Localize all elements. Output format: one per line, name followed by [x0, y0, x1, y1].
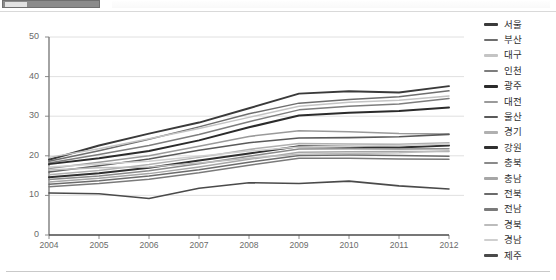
y-axis-tick-label: 40	[13, 72, 39, 81]
legend-swatch-icon	[484, 239, 498, 241]
legend-item[interactable]: 경북	[484, 217, 554, 232]
y-axis-tick-label: 10	[13, 190, 39, 199]
legend-item-label: 제주	[504, 251, 522, 261]
toolbar-chip[interactable]	[2, 0, 100, 8]
legend-item-label: 강원	[504, 143, 522, 153]
legend-swatch-icon	[484, 177, 498, 179]
x-axis-tick-label: 2010	[329, 241, 369, 250]
legend-swatch-icon	[484, 162, 498, 164]
legend-item[interactable]: 충북	[484, 156, 554, 171]
legend-item[interactable]: 부산	[484, 32, 554, 47]
legend-item[interactable]: 울산	[484, 109, 554, 124]
legend-item-label: 충남	[504, 174, 522, 184]
x-axis-tick-label: 2006	[129, 241, 169, 250]
legend-item[interactable]: 광주	[484, 79, 554, 94]
y-axis-tick-label: 50	[13, 32, 39, 41]
y-axis-tick-label: 30	[13, 111, 39, 120]
legend-item-label: 충북	[504, 158, 522, 168]
x-axis-tick-label: 2012	[429, 241, 469, 250]
legend-swatch-icon	[484, 224, 498, 226]
legend-item-label: 대구	[504, 50, 522, 60]
legend-swatch-icon	[484, 116, 498, 118]
chart-page: 01020304050 2004200520062007200820092010…	[0, 0, 556, 280]
legend-item[interactable]: 경기	[484, 125, 554, 140]
legend-swatch-icon	[484, 23, 498, 26]
bottom-divider	[6, 271, 550, 272]
legend-item-label: 인천	[504, 66, 522, 76]
legend-item-label: 서울	[504, 20, 522, 30]
plot-area	[0, 14, 470, 266]
x-axis-tick-label: 2009	[279, 241, 319, 250]
legend-item[interactable]: 전남	[484, 202, 554, 217]
legend-item[interactable]: 서울	[484, 17, 554, 32]
y-axis-tick-label: 0	[13, 230, 39, 239]
legend-item-label: 경기	[504, 127, 522, 137]
legend-item-label: 전북	[504, 189, 522, 199]
legend-swatch-icon	[484, 101, 498, 103]
legend-item[interactable]: 충남	[484, 171, 554, 186]
toolbar-divider	[0, 11, 556, 12]
legend-swatch-icon	[484, 131, 498, 133]
legend-item[interactable]: 대전	[484, 94, 554, 109]
legend-item-label: 경북	[504, 220, 522, 230]
legend-item[interactable]: 강원	[484, 140, 554, 155]
line-chart: 01020304050 2004200520062007200820092010…	[0, 14, 556, 266]
series-line	[49, 181, 449, 198]
legend-item[interactable]: 경남	[484, 232, 554, 247]
legend-item-label: 울산	[504, 112, 522, 122]
legend-item-label: 전남	[504, 204, 522, 214]
toolbar-chip-inner	[5, 2, 27, 7]
toolbar-ghost-text	[112, 1, 550, 8]
legend-item[interactable]: 전북	[484, 186, 554, 201]
legend-item[interactable]: 대구	[484, 48, 554, 63]
x-axis-tick-label: 2008	[229, 241, 269, 250]
legend-item[interactable]: 인천	[484, 63, 554, 78]
x-axis-tick-label: 2005	[79, 241, 119, 250]
x-axis-tick-label: 2004	[29, 241, 69, 250]
x-axis-tick-label: 2011	[379, 241, 419, 250]
chart-legend: 서울부산대구인천광주대전울산경기강원충북충남전북전남경북경남제주	[484, 17, 554, 263]
legend-swatch-icon	[484, 39, 498, 41]
legend-swatch-icon	[484, 193, 498, 195]
legend-swatch-icon	[484, 208, 498, 210]
y-axis-tick-label: 20	[13, 151, 39, 160]
legend-item-label: 광주	[504, 81, 522, 91]
toolbar-strip	[0, 0, 556, 9]
legend-item-label: 부산	[504, 35, 522, 45]
legend-item[interactable]: 제주	[484, 248, 554, 263]
legend-item-label: 경남	[504, 235, 522, 245]
series-lines	[49, 86, 449, 198]
x-axis-tick-label: 2007	[179, 241, 219, 250]
legend-swatch-icon	[484, 146, 498, 149]
legend-swatch-icon	[484, 70, 498, 72]
legend-item-label: 대전	[504, 97, 522, 107]
legend-swatch-icon	[484, 254, 498, 256]
legend-swatch-icon	[484, 85, 498, 88]
legend-swatch-icon	[484, 54, 498, 56]
